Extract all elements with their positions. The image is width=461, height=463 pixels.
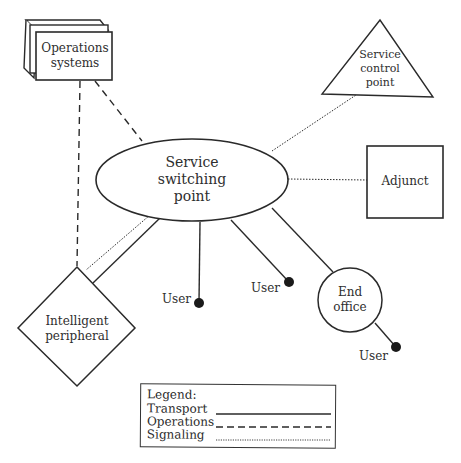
ssp-to-scp-line — [272, 95, 356, 151]
ssp-to-ip-transport-line — [93, 218, 160, 283]
ssp-to-end-office-line — [272, 208, 333, 272]
user1-label: User — [162, 292, 191, 307]
user3-terminal-icon — [391, 342, 401, 352]
user3-label: User — [359, 349, 388, 364]
legend-item-signaling: Signaling — [147, 427, 205, 441]
user2-terminal-icon — [284, 277, 294, 287]
service-switching-point-label: Service switching point — [142, 154, 242, 205]
ops-to-ssp-line — [95, 81, 142, 141]
ssp-to-user2-line — [231, 220, 288, 281]
ssp-to-user1-line — [199, 222, 200, 302]
user2-label: User — [251, 281, 280, 296]
adjunct-label: Adjunct — [367, 174, 443, 189]
legend-box: Legend: Transport Operations Signaling — [140, 383, 336, 448]
end-office-to-user3-line — [375, 323, 395, 346]
service-control-point-label: Service control point — [350, 48, 410, 90]
user1-terminal-icon — [194, 298, 204, 308]
ssp-to-ip-signaling-line — [86, 215, 150, 270]
ssp-to-adjunct-line — [288, 179, 367, 180]
intelligent-peripheral-label: Intelligent peripheral — [37, 314, 117, 344]
ops-to-ip-line — [77, 81, 80, 266]
legend-title: Legend: — [147, 387, 196, 401]
operations-systems-label: Operations systems — [38, 41, 112, 71]
end-office-label: End office — [320, 285, 380, 315]
